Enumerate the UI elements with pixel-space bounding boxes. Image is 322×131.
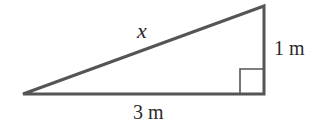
vertical-leg-label: 1 m: [274, 37, 305, 59]
hypotenuse-label: x: [136, 18, 147, 43]
horizontal-leg-label: 3 m: [133, 101, 164, 123]
right-angle-marker: [240, 69, 264, 94]
right-triangle-diagram: x 1 m 3 m: [0, 0, 322, 131]
